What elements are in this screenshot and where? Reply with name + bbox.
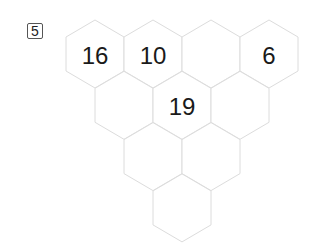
hex-pyramid: 1610619 [0,0,317,247]
hex-value: 19 [169,93,196,120]
hex-value: 16 [82,42,109,69]
hex-value: 6 [262,42,275,69]
hex-value: 10 [140,42,167,69]
